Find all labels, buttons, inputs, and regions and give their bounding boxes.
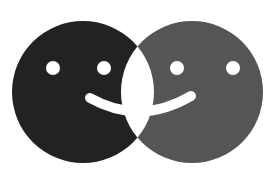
left-face-left-eye-icon xyxy=(46,61,60,75)
illustration xyxy=(0,0,266,171)
left-face-right-eye-icon xyxy=(97,61,111,75)
right-face-right-eye-icon xyxy=(226,61,240,75)
two-smiley-faces-graphic xyxy=(0,0,266,171)
right-face-left-eye-icon xyxy=(170,61,184,75)
